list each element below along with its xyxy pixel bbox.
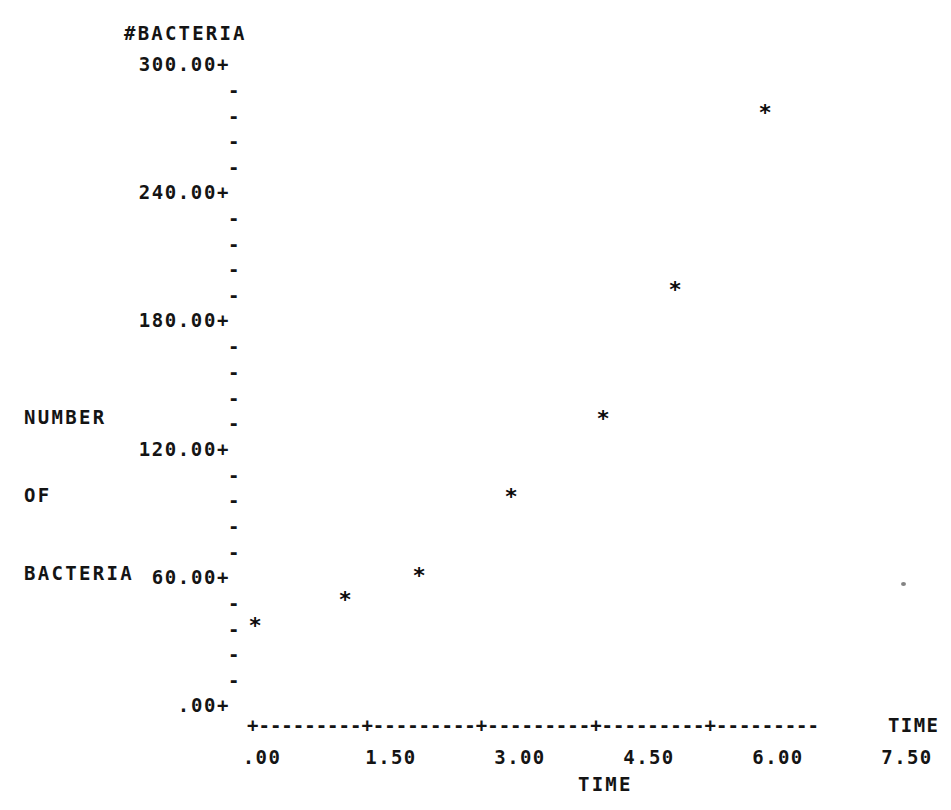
y-minor-tick: -	[228, 414, 246, 433]
data-point-marker: *	[596, 408, 609, 430]
data-point-marker: *	[504, 486, 517, 508]
y-minor-tick: -	[228, 260, 246, 279]
x-axis-label-7-50: 7.50	[881, 748, 932, 767]
y-minor-tick: -	[228, 337, 246, 356]
y-minor-tick: -	[228, 158, 246, 177]
y-minor-tick: -	[228, 363, 246, 382]
y-minor-tick: -	[228, 107, 246, 126]
y-minor-tick: -	[228, 286, 246, 305]
y-minor-tick: -	[228, 235, 246, 254]
y-axis-label-180: 180.00+	[112, 311, 230, 330]
x-axis-label-6-00: 6.00	[752, 748, 803, 767]
y-variable-name-label: #BACTERIA	[124, 24, 247, 43]
y-minor-tick: -	[228, 81, 246, 100]
y-axis-title-line-2: OF	[24, 482, 134, 508]
scatter-plot-canvas: #BACTERIA 300.00+ 240.00+ 180.00+ 120.00…	[0, 0, 951, 810]
y-axis-title: NUMBER OF BACTERIA	[24, 352, 134, 638]
y-minor-tick: -	[228, 620, 246, 639]
x-axis-line: +---------+---------+---------+---------…	[247, 716, 819, 735]
data-point-marker: *	[412, 565, 425, 587]
y-minor-tick: -	[228, 389, 246, 408]
y-minor-tick: -	[228, 543, 246, 562]
y-minor-tick: -	[228, 132, 246, 151]
y-axis-label-300: 300.00+	[112, 55, 230, 74]
y-axis-label-0: .00+	[112, 696, 230, 715]
x-axis-title: TIME	[578, 775, 633, 794]
y-minor-tick: -	[228, 209, 246, 228]
y-minor-tick: -	[228, 466, 246, 485]
data-point-marker: *	[758, 102, 771, 124]
y-axis-label-240: 240.00+	[112, 183, 230, 202]
x-axis-variable-label: TIME	[888, 716, 939, 735]
y-minor-tick: -	[228, 671, 246, 690]
data-point-marker: *	[248, 615, 261, 637]
y-axis-title-line-3: BACTERIA	[24, 560, 134, 586]
x-axis-label-4-50: 4.50	[623, 748, 674, 767]
x-axis-label-0: .00	[243, 748, 282, 767]
data-point-marker: *	[668, 279, 681, 301]
y-minor-tick: -	[228, 491, 246, 510]
y-minor-tick: -	[228, 517, 246, 536]
y-axis-title-line-1: NUMBER	[24, 404, 134, 430]
data-point-marker: *	[338, 589, 351, 611]
y-minor-tick: -	[228, 594, 246, 613]
x-axis-label-3-00: 3.00	[494, 748, 545, 767]
y-minor-tick: -	[228, 645, 246, 664]
scan-artifact-speck	[901, 582, 906, 586]
x-axis-label-1-50: 1.50	[365, 748, 416, 767]
